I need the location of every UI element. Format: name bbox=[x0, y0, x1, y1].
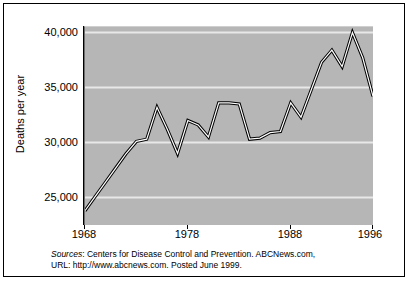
gridlines bbox=[85, 33, 373, 198]
data-series-line-outline bbox=[85, 33, 373, 211]
plot-area bbox=[84, 26, 373, 225]
source-line-1-text: : Centers for Disease Control and Preven… bbox=[82, 249, 315, 259]
source-note: Sources: Centers for Disease Control and… bbox=[51, 249, 381, 271]
y-tick-label-35000: 35,000 bbox=[18, 82, 78, 93]
source-label: Sources bbox=[51, 249, 82, 259]
x-tick-label-1968: 1968 bbox=[54, 228, 114, 240]
y-tick-label-40000: 40,000 bbox=[18, 27, 78, 38]
figure-frame: Deaths per year 40,000 35,000 30,000 25,… bbox=[3, 3, 405, 277]
chart-area: Deaths per year 40,000 35,000 30,000 25,… bbox=[4, 4, 404, 242]
source-line-2: URL: http://www.abcnews.com. Posted June… bbox=[51, 260, 381, 271]
line-chart-svg bbox=[85, 27, 373, 225]
y-tick-label-30000: 30,000 bbox=[18, 137, 78, 148]
x-tick-label-1988: 1988 bbox=[260, 228, 320, 240]
data-series-line-core bbox=[85, 33, 373, 211]
y-axis-title: Deaths per year bbox=[14, 54, 26, 174]
x-tick-label-1996: 1996 bbox=[340, 228, 400, 240]
source-line-1: Sources: Centers for Disease Control and… bbox=[51, 249, 381, 260]
x-tick-label-1978: 1978 bbox=[157, 228, 217, 240]
y-tick-label-25000: 25,000 bbox=[18, 192, 78, 203]
